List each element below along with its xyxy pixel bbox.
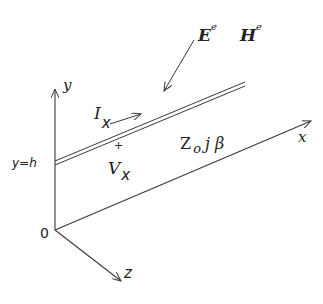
origin-label: 0	[40, 226, 49, 240]
x-axis-label: x	[298, 130, 306, 145]
z-axis	[55, 230, 121, 281]
height-marker-label: y=h	[12, 157, 37, 169]
current-label: Ix	[94, 105, 110, 122]
incident-field-arrow	[164, 40, 194, 91]
current-arrow	[110, 114, 141, 124]
voltage-label: Vx	[108, 160, 129, 177]
diagram-canvas: Ee He y Ix + Vx Zoj β x y=h 0 z	[0, 0, 323, 304]
field-h-label: He	[240, 26, 262, 44]
transmission-line-lower	[55, 86, 245, 165]
y-axis-label: y	[63, 78, 71, 93]
z-axis-label: z	[124, 266, 132, 281]
field-e-label: Ee	[198, 26, 217, 44]
diagram-lines	[0, 0, 323, 304]
impedance-propagation-label: Zoj β	[180, 136, 224, 152]
voltage-polarity-plus: +	[114, 140, 123, 151]
